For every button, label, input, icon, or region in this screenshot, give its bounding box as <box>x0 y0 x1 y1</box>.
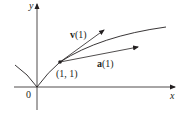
point-marker <box>58 60 62 64</box>
vector-diagram: y x 0 (1, 1) v(1) a(1) <box>0 0 187 118</box>
x-axis-label: x <box>169 90 175 101</box>
point-label: (1, 1) <box>56 68 78 80</box>
acceleration-label: a(1) <box>97 58 114 70</box>
velocity-arg: (1) <box>75 29 87 41</box>
curve <box>15 27 166 87</box>
origin-label: 0 <box>26 89 31 100</box>
acceleration-arg: (1) <box>102 58 114 70</box>
y-axis-label: y <box>28 0 34 11</box>
velocity-label: v(1) <box>70 29 87 41</box>
